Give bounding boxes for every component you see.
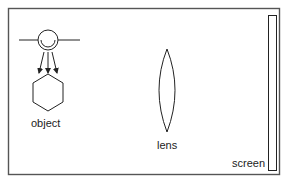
optics-diagram [0, 0, 286, 182]
screen-label: screen [232, 158, 265, 169]
light-rays-arrows-icon [39, 52, 57, 73]
lens-label: lens [157, 140, 177, 151]
object-hexagon-icon [33, 74, 63, 111]
lens-icon [159, 49, 175, 132]
light-source-icon [19, 30, 80, 50]
diagram-frame [9, 9, 280, 175]
object-label: object [31, 118, 60, 129]
screen-icon [269, 16, 277, 171]
